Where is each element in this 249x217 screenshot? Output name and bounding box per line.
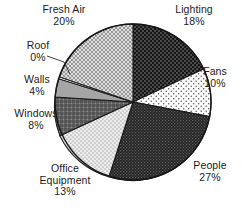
pie-label-roof: Roof 0%	[12, 40, 64, 63]
pie-label-lighting-pct: 18%	[152, 16, 236, 28]
pie-label-lighting-name: Lighting	[175, 3, 213, 15]
pie-label-fans-name: Fans	[203, 65, 227, 77]
pie-label-walls: Walls 4%	[9, 74, 65, 97]
pie-label-office-equipment: Office Equipment 13%	[20, 163, 110, 198]
pie-label-fresh-air: Fresh Air 20%	[20, 4, 108, 27]
pie-label-people: People 27%	[178, 160, 242, 183]
pie-label-fans-pct: 10%	[186, 78, 244, 90]
pie-label-fresh-air-name: Fresh Air	[43, 3, 86, 15]
pie-label-office-equipment-pct: 13%	[20, 186, 110, 198]
pie-label-lighting: Lighting 18%	[152, 4, 236, 27]
pie-label-roof-name: Roof	[27, 39, 50, 51]
pie-label-fresh-air-pct: 20%	[20, 16, 108, 28]
pie-label-walls-name: Walls	[24, 73, 50, 85]
pie-label-roof-pct: 0%	[12, 52, 64, 64]
pie-label-windows: Windows 8%	[1, 108, 71, 131]
pie-chart: Fresh Air 20% Lighting 18% Fans 10% Peop…	[0, 0, 249, 217]
pie-label-windows-name: Windows	[14, 107, 57, 119]
pie-label-fans: Fans 10%	[186, 66, 244, 89]
pie-label-people-pct: 27%	[178, 172, 242, 184]
pie-label-people-name: People	[193, 159, 226, 171]
pie-label-windows-pct: 8%	[1, 120, 71, 132]
pie-label-office-equipment-name-line1: Office	[51, 162, 79, 174]
pie-label-walls-pct: 4%	[9, 86, 65, 98]
